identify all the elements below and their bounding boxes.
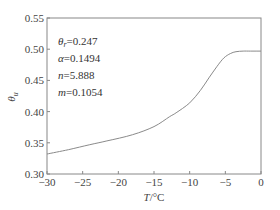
x-tick-label: 0 <box>258 176 264 188</box>
annotation-line: α=0.1494 <box>58 52 101 64</box>
x-tick-label: −25 <box>74 176 92 188</box>
annotation-line: θr=0.247 <box>58 35 98 49</box>
y-tick-label: 0.30 <box>25 168 45 180</box>
y-tick-label: 0.35 <box>25 137 45 149</box>
x-tick-label: −20 <box>110 176 128 188</box>
x-tick-label: −10 <box>181 176 199 188</box>
annotation-line: n=5.888 <box>58 69 95 81</box>
y-tick-label: 0.45 <box>25 74 45 86</box>
y-tick-label: 0.40 <box>25 106 45 118</box>
x-tick-label: −5 <box>219 176 231 188</box>
y-axis-label: θu <box>5 92 20 101</box>
y-tick-label: 0.50 <box>25 43 45 55</box>
series-line <box>47 51 261 154</box>
y-axis-ticks: 0.300.350.400.450.500.55 <box>25 12 50 180</box>
x-axis-label: T/°C <box>144 191 165 203</box>
x-tick-label: −15 <box>145 176 163 188</box>
y-tick-label: 0.55 <box>25 12 45 24</box>
parameter-annotations: θr=0.247α=0.1494n=5.888m=0.1054 <box>58 35 103 98</box>
chart: −30−25−20−15−10−50 0.300.350.400.450.500… <box>0 0 280 210</box>
data-series <box>47 51 261 154</box>
annotation-line: m=0.1054 <box>58 86 103 98</box>
